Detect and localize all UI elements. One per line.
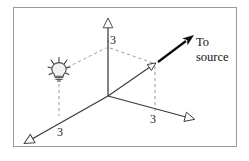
figure-drawing [0, 0, 249, 161]
coordinate-axes [32, 27, 186, 139]
dashed-top-to-corner [110, 48, 153, 63]
left-axis [32, 96, 108, 139]
to-source-label: To source [196, 35, 246, 65]
box-corner-vector [108, 67, 150, 96]
dimension-label-vertical: 3 [110, 34, 116, 46]
dimension-label-right: 3 [150, 113, 156, 125]
light-bulb-source-icon [48, 58, 70, 82]
dashed-bulb-to-top [62, 48, 106, 70]
to-source-label-line1: To [196, 35, 246, 50]
to-source-arrow [158, 41, 186, 62]
to-source-label-line2: source [196, 50, 246, 65]
figure-root: 3 3 3 To source [0, 0, 249, 161]
dimension-label-left: 3 [57, 126, 63, 138]
right-axis [108, 96, 186, 117]
bulb-glass-icon [52, 63, 66, 77]
